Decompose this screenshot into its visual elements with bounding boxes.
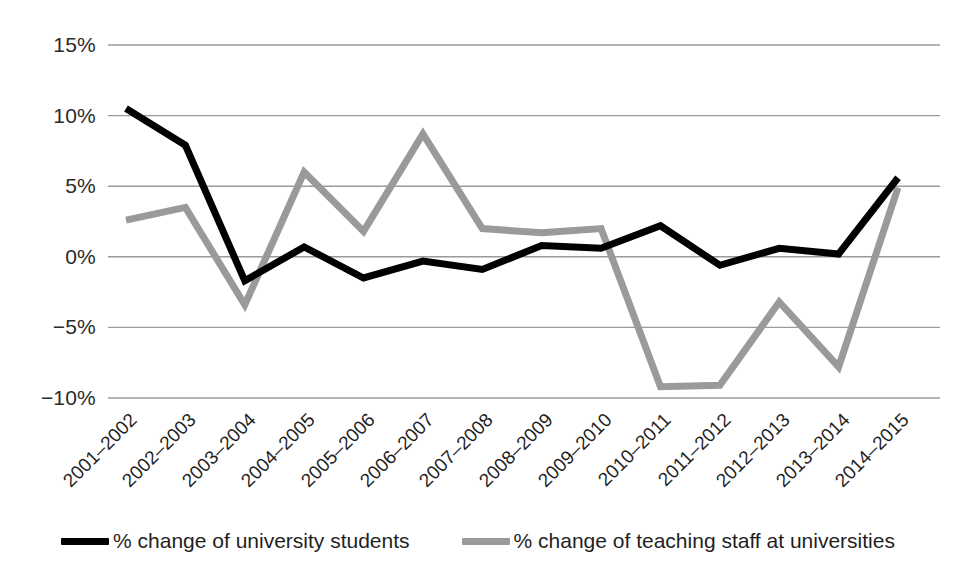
legend-swatch-teaching-staff — [462, 538, 510, 545]
x-axis: 2001–20022002–20032003–20042004–20052005… — [0, 405, 956, 510]
series-line — [126, 109, 898, 281]
legend-swatch-students — [61, 538, 109, 545]
legend-label-students: % change of university students — [113, 529, 410, 553]
legend-label-teaching-staff: % change of teaching staff at universiti… — [514, 529, 895, 553]
series-lines — [0, 0, 956, 410]
plot-area: 15%10%5%0%−5%−10% — [0, 0, 956, 410]
chart-legend: % change of university students % change… — [0, 518, 956, 564]
line-chart: 15%10%5%0%−5%−10% 2001–20022002–20032003… — [0, 0, 956, 581]
legend-item-teaching-staff[interactable]: % change of teaching staff at universiti… — [462, 529, 895, 553]
legend-item-students[interactable]: % change of university students — [61, 529, 410, 553]
